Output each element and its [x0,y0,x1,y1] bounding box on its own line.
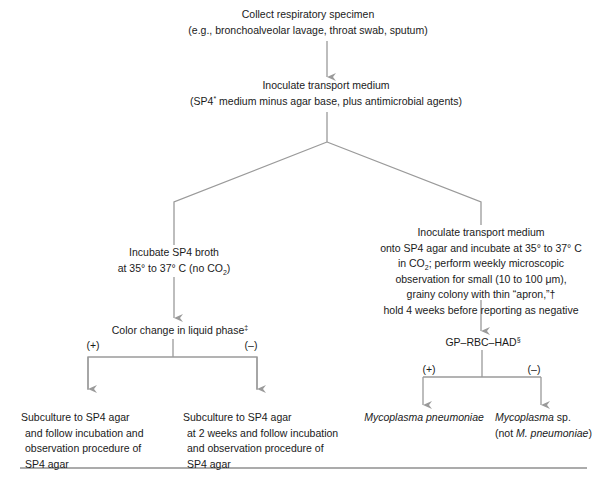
label-color-positive: (+) [86,338,99,354]
node-subculture-negative: Subculture to SP4 agar at 2 weeks and fo… [183,410,338,472]
sub-neg-line3: and observation procedure of [183,441,338,457]
branch-right-connector [327,142,481,225]
agar-line5: grainy colony with thin “apron,”† [380,287,582,303]
agar-line3: in CO2; perform weekly microscopic [380,256,582,272]
myco-sp-line1: Mycoplasma sp. [495,410,592,426]
branch-left-connector [174,142,327,245]
node-mycoplasma-pneumoniae: Mycoplasma pneumoniae [364,410,484,426]
agar-line1: Inoculate transport medium [380,225,582,241]
node-incubate-broth: Incubate SP4 broth at 35° to 37° C (no C… [118,245,231,276]
node-color-change: Color change in liquid phase‡ [112,323,248,339]
sub-pos-line4: SP4 agar [21,457,144,473]
myco-sp-line2: (not M. pneumoniae) [495,426,592,442]
sub-pos-line3: observation procedure of [21,441,144,457]
sub-pos-line1: Subculture to SP4 agar [21,410,144,426]
label-had-negative: (–) [528,362,541,378]
collect-line1: Collect respiratory specimen [188,7,427,23]
node-inoculate-transport: Inoculate transport medium (SP4* medium … [190,78,462,109]
node-inoculate-agar: Inoculate transport medium onto SP4 agar… [380,225,582,318]
node-collect-specimen: Collect respiratory specimen (e.g., bron… [188,7,427,38]
sub-neg-line4: SP4 agar [183,457,338,473]
label-color-negative: (–) [245,338,258,354]
agar-line4: observation for small (10 to 100 μm), [380,272,582,288]
node-subculture-positive: Subculture to SP4 agar and follow incuba… [21,410,144,472]
sub-neg-line1: Subculture to SP4 agar [183,410,338,426]
sub-neg-line2: at 2 weeks and follow incubation [183,426,338,442]
sub-pos-line2: and follow incubation and [21,426,144,442]
collect-line2: (e.g., bronchoalveolar lavage, throat sw… [188,23,427,39]
transport-line1: Inoculate transport medium [190,78,462,94]
broth-line2: at 35° to 37° C (no CO2) [118,261,231,277]
agar-line2: onto SP4 agar and incubate at 35° to 37°… [380,241,582,257]
color-change-split [88,357,257,390]
node-mycoplasma-sp: Mycoplasma sp. (not M. pneumoniae) [495,410,592,441]
transport-line2: (SP4* medium minus agar base, plus antim… [190,94,462,110]
agar-line6: hold 4 weeks before reporting as negativ… [380,303,582,319]
label-had-positive: (+) [422,362,435,378]
broth-line1: Incubate SP4 broth [118,245,231,261]
node-gp-rbc-had: GP–RBC–HAD§ [445,335,520,351]
